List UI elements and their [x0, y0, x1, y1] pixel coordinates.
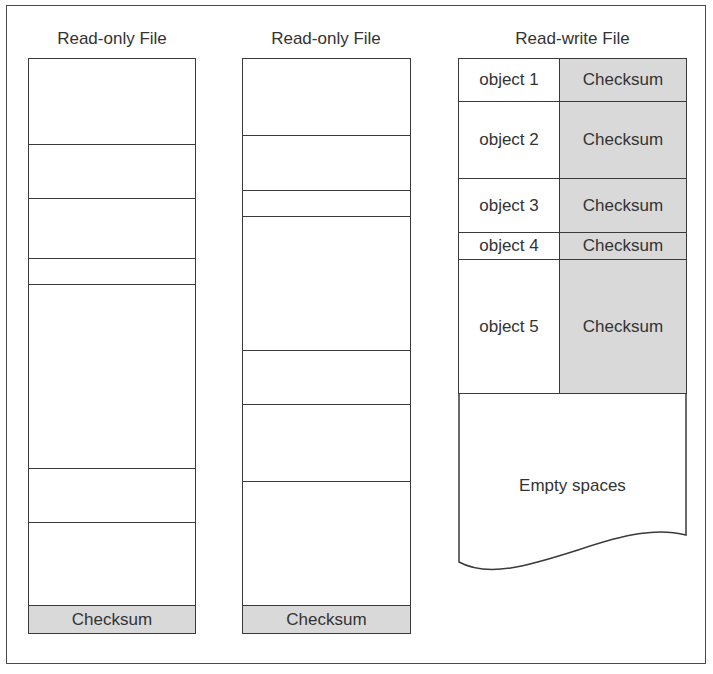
checksum-cell: Checksum — [560, 260, 686, 393]
object-divider — [243, 404, 410, 405]
rw-row-5: object 5 Checksum — [458, 260, 687, 394]
rw-row-4: object 4 Checksum — [458, 233, 687, 260]
checksum-block: Checksum — [243, 605, 410, 633]
object-label: object 4 — [459, 233, 560, 259]
object-divider — [29, 258, 195, 259]
readwrite-file: object 1 Checksum object 2 Checksum obje… — [458, 58, 687, 594]
readonly-file-1: Checksum — [28, 58, 196, 634]
rw-row-3: object 3 Checksum — [458, 179, 687, 233]
column-title-readonly-1: Read-only File — [28, 29, 196, 49]
object-label: object 3 — [459, 179, 560, 232]
object-label: object 5 — [459, 260, 560, 393]
object-divider — [29, 522, 195, 523]
empty-spaces-label: Empty spaces — [458, 476, 687, 496]
object-divider — [243, 135, 410, 136]
column-title-readwrite: Read-write File — [458, 29, 687, 49]
object-divider — [243, 350, 410, 351]
object-label: object 1 — [459, 59, 560, 101]
rw-row-1: object 1 Checksum — [458, 58, 687, 102]
object-divider — [243, 216, 410, 217]
object-divider — [29, 198, 195, 199]
object-divider — [243, 481, 410, 482]
rw-row-2: object 2 Checksum — [458, 102, 687, 179]
checksum-cell: Checksum — [560, 179, 686, 232]
object-divider — [243, 190, 410, 191]
checksum-cell: Checksum — [560, 102, 686, 178]
object-divider — [29, 284, 195, 285]
checksum-cell: Checksum — [560, 233, 686, 259]
object-divider — [29, 468, 195, 469]
checksum-block: Checksum — [29, 605, 195, 633]
object-divider — [29, 144, 195, 145]
readonly-file-2: Checksum — [242, 58, 411, 634]
checksum-cell: Checksum — [560, 59, 686, 101]
object-label: object 2 — [459, 102, 560, 178]
column-title-readonly-2: Read-only File — [242, 29, 410, 49]
